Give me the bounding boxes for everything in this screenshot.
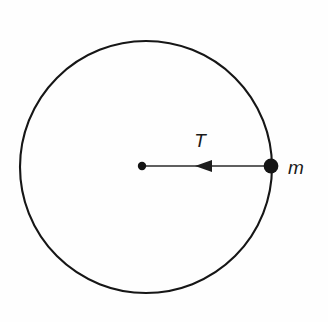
figure-background: [0, 0, 328, 322]
mass-particle-dot: [264, 159, 279, 174]
circular-motion-figure: T m: [0, 0, 328, 322]
physics-diagram-canvas: T m: [0, 0, 328, 322]
center-pivot-dot: [138, 162, 146, 170]
tension-label: T: [194, 130, 207, 151]
mass-label: m: [288, 157, 304, 178]
